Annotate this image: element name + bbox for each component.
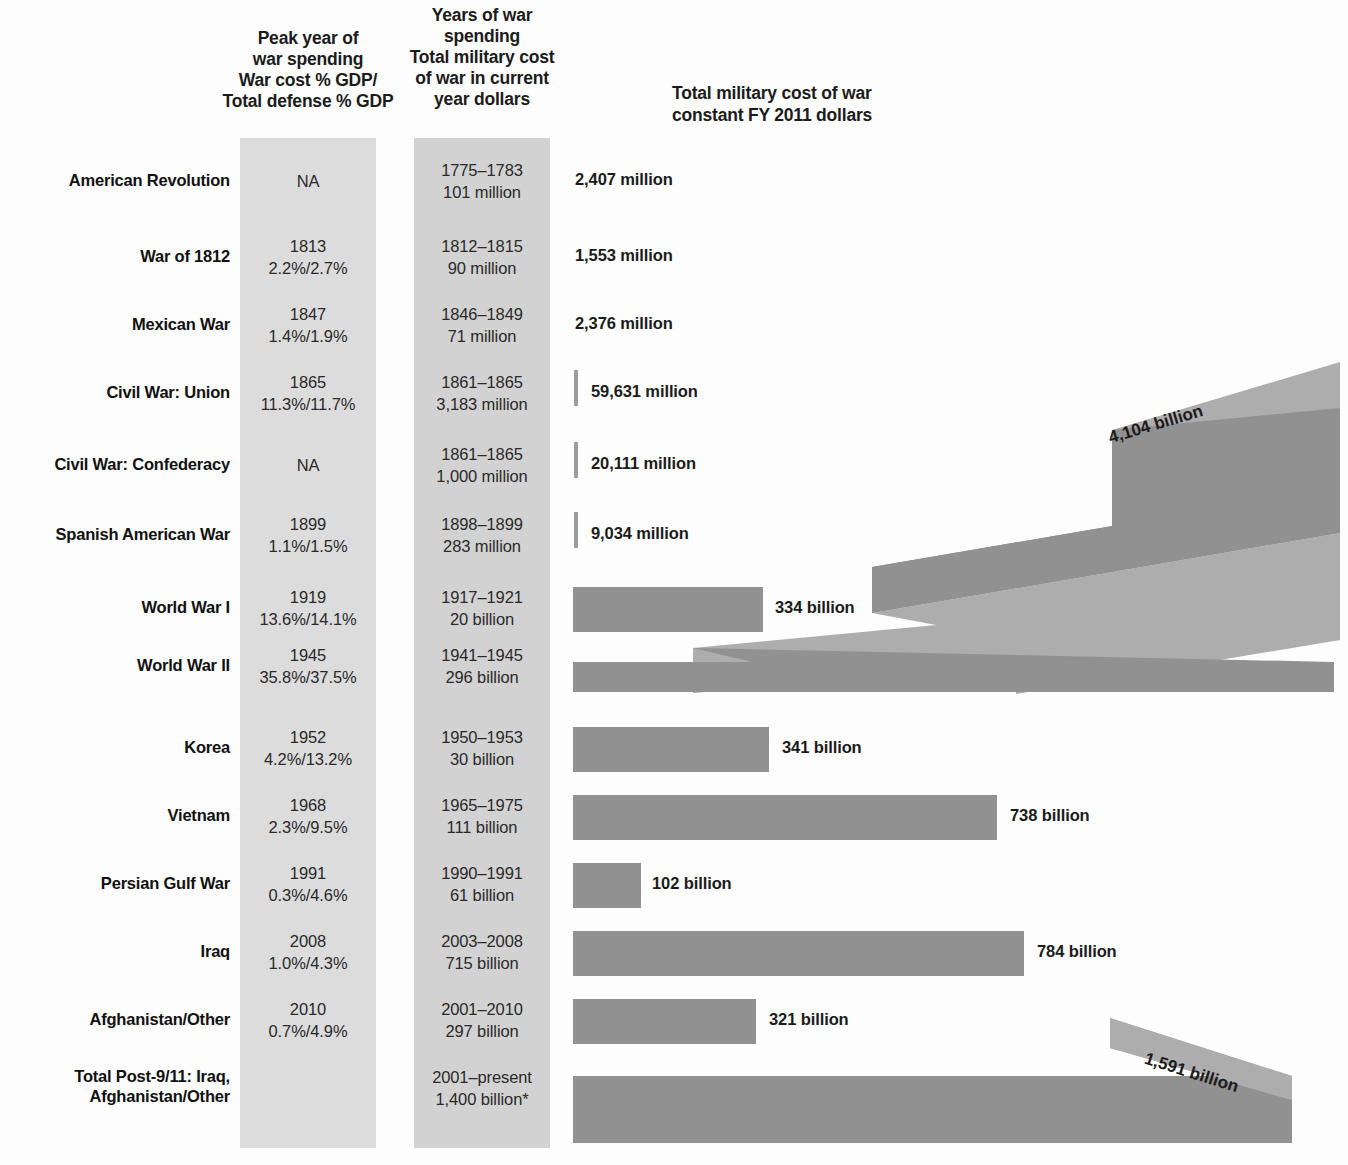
post911-wrapped-bar bbox=[0, 0, 1348, 1165]
infographic-canvas: Peak year of war spending War cost % GDP… bbox=[0, 0, 1348, 1165]
post911-bar-base bbox=[573, 1076, 1292, 1143]
